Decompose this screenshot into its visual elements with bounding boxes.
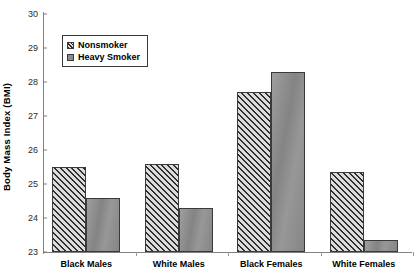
- y-tick-mark: [43, 48, 47, 49]
- y-axis-title: Body Mass Index (BMI): [0, 0, 14, 274]
- chart-legend: NonsmokerHeavy Smoker: [62, 35, 148, 67]
- y-tick-label: 27: [28, 111, 38, 121]
- bar-nonsmoker: [52, 167, 86, 252]
- bar-heavy-smoker: [364, 240, 398, 252]
- y-tick-mark: [43, 82, 47, 83]
- y-tick-label: 28: [28, 77, 38, 87]
- bmi-bar-chart-figure: Body Mass Index (BMI) 2324252627282930 B…: [0, 0, 419, 274]
- x-tick-label: White Females: [332, 259, 395, 269]
- bar-heavy-smoker: [179, 208, 213, 252]
- y-tick-mark: [43, 218, 47, 219]
- y-tick-label: 26: [28, 145, 38, 155]
- x-tick-label: White Males: [153, 259, 205, 269]
- x-tick-mark: [228, 252, 229, 256]
- legend-item-label: Heavy Smoker: [78, 52, 140, 62]
- legend-item-label: Nonsmoker: [78, 40, 128, 50]
- bar-heavy-smoker: [86, 198, 120, 252]
- x-tick-mark: [413, 252, 414, 256]
- legend-item: Nonsmoker: [67, 39, 140, 51]
- x-tick-mark: [136, 252, 137, 256]
- x-tick-mark: [321, 252, 322, 256]
- bar-heavy-smoker: [271, 72, 305, 252]
- x-tick-label: Black Males: [60, 259, 112, 269]
- y-tick-label: 29: [28, 43, 38, 53]
- bar-nonsmoker: [145, 164, 179, 252]
- hatched-swatch-icon: [67, 42, 74, 49]
- y-tick-mark: [43, 252, 47, 253]
- y-tick-mark: [43, 150, 47, 151]
- bar-nonsmoker: [330, 172, 364, 252]
- y-tick-mark: [43, 184, 47, 185]
- y-tick-label: 23: [28, 247, 38, 257]
- bar-nonsmoker: [237, 92, 271, 252]
- legend-item: Heavy Smoker: [67, 51, 140, 63]
- y-tick-label: 24: [28, 213, 38, 223]
- y-tick-mark: [43, 116, 47, 117]
- solid-swatch-icon: [67, 54, 74, 61]
- x-tick-label: Black Females: [240, 259, 303, 269]
- y-tick-mark: [43, 14, 47, 15]
- y-tick-label: 30: [28, 9, 38, 19]
- y-tick-label: 25: [28, 179, 38, 189]
